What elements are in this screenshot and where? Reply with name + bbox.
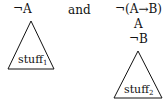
left-tree-label: stuff1 bbox=[18, 54, 47, 69]
right-tree-label-text: stuff bbox=[124, 83, 149, 96]
right-formula-not-a-implies-b: ¬(A→B) bbox=[115, 3, 162, 15]
left-tree-subscript: 1 bbox=[43, 59, 47, 67]
left-tree-label-text: stuff bbox=[18, 53, 43, 66]
right-tree-subscript: 2 bbox=[149, 89, 153, 97]
left-formula-not-a: ¬A bbox=[13, 3, 32, 15]
connector-and: and bbox=[68, 4, 91, 16]
right-tree-label: stuff2 bbox=[124, 84, 153, 99]
right-formula-a: A bbox=[134, 18, 143, 30]
right-formula-not-b: ¬B bbox=[129, 33, 148, 45]
